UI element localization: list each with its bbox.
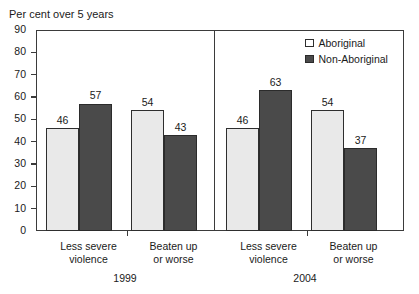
category-label-2004-beaten-up: Beaten up or worse — [301, 240, 406, 266]
legend-label-non-aboriginal: Non-Aboriginal — [319, 53, 388, 66]
y-tick-label-70: 70 — [14, 68, 26, 81]
category-label-1999-beaten-up: Beaten up or worse — [121, 240, 226, 266]
bar-value-1999-beaten-up-non-aboriginal: 43 — [164, 121, 197, 133]
category-label-line2: or worse — [121, 253, 226, 266]
legend-label-aboriginal: Aboriginal — [319, 37, 366, 50]
x-tick-2004-group-separator — [307, 231, 308, 236]
chart-title: Per cent over 5 years — [9, 8, 114, 21]
legend-item-non-aboriginal: Non-Aboriginal — [305, 52, 388, 66]
bar-1999-less-severe-aboriginal — [46, 128, 79, 231]
bar-1999-beaten-up-non-aboriginal — [164, 135, 197, 231]
panel-label-2004: 2004 — [260, 272, 350, 285]
bar-value-1999-beaten-up-aboriginal: 54 — [131, 96, 164, 108]
y-tick-label-30: 30 — [14, 157, 26, 170]
bar-value-2004-beaten-up-aboriginal: 54 — [311, 96, 344, 108]
legend: Aboriginal Non-Aboriginal — [305, 36, 388, 68]
bar-1999-less-severe-non-aboriginal — [79, 104, 112, 231]
category-label-line1: Beaten up — [301, 240, 406, 253]
y-tick-label-60: 60 — [14, 90, 26, 103]
bar-value-1999-less-severe-aboriginal: 46 — [46, 114, 79, 126]
bar-2004-beaten-up-non-aboriginal — [344, 148, 377, 231]
grouped-bar-chart: Per cent over 5 years 90 80 70 60 50 40 — [0, 0, 419, 294]
category-label-line1: Beaten up — [121, 240, 226, 253]
y-tick-label-0: 0 — [20, 224, 26, 237]
legend-swatch-light-icon — [305, 39, 314, 48]
x-tick-1999-group-separator — [127, 231, 128, 236]
bar-value-2004-less-severe-non-aboriginal: 63 — [259, 76, 292, 88]
legend-item-aboriginal: Aboriginal — [305, 36, 388, 50]
y-tick-label-50: 50 — [14, 112, 26, 125]
y-tick-label-90: 90 — [14, 23, 26, 36]
y-tick-label-10: 10 — [14, 202, 26, 215]
bar-2004-less-severe-non-aboriginal — [259, 90, 292, 231]
panel-label-1999: 1999 — [80, 272, 170, 285]
bar-2004-less-severe-aboriginal — [226, 128, 259, 231]
bar-1999-beaten-up-aboriginal — [131, 110, 164, 231]
bar-value-2004-beaten-up-non-aboriginal: 37 — [344, 134, 377, 146]
y-tick-label-80: 80 — [14, 45, 26, 58]
legend-swatch-dark-icon — [305, 55, 314, 64]
category-label-line2: or worse — [301, 253, 406, 266]
bar-value-1999-less-severe-non-aboriginal: 57 — [79, 89, 112, 101]
y-axis: 90 80 70 60 50 40 30 20 — [0, 30, 36, 231]
y-tick-label-40: 40 — [14, 135, 26, 148]
y-tick-label-20: 20 — [14, 179, 26, 192]
bar-2004-beaten-up-aboriginal — [311, 110, 344, 231]
bar-value-2004-less-severe-aboriginal: 46 — [226, 114, 259, 126]
